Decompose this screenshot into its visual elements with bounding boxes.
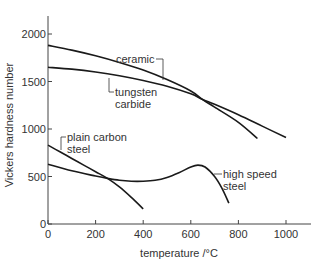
y-tick-label: 2000 — [22, 28, 46, 40]
series-lines — [48, 45, 286, 208]
series-tungsten-carbide — [48, 67, 286, 137]
y-tick-label: 1000 — [22, 123, 46, 135]
x-tick-label: 600 — [182, 228, 200, 240]
x-tick-label: 1000 — [274, 228, 298, 240]
x-tick-label: 0 — [45, 228, 51, 240]
y-tick-label: 500 — [28, 171, 46, 183]
x-ticks: 02004006008001000 — [45, 220, 298, 240]
x-axis-label: temperature /°C — [140, 247, 218, 259]
y-axis-label: Vickers hardness number — [3, 62, 15, 187]
series-high-speed-steel — [48, 164, 229, 203]
label-hss-2: steel — [223, 180, 246, 192]
x-tick-label: 400 — [134, 228, 152, 240]
y-ticks: 0500100015002000 — [22, 28, 52, 230]
y-tick-label: 1500 — [22, 76, 46, 88]
series-plain-carbon-steel — [48, 145, 143, 209]
leader-tungsten — [109, 78, 114, 92]
x-tick-label: 200 — [86, 228, 104, 240]
label-plain-2: steel — [67, 143, 90, 155]
axes: 0500100015002000 02004006008001000 tempe… — [3, 16, 311, 259]
hardness-temperature-chart: 0500100015002000 02004006008001000 tempe… — [0, 0, 324, 263]
label-tungsten-2: carbide — [115, 98, 151, 110]
label-ceramic: ceramic — [116, 53, 155, 65]
label-hss-1: high speed — [223, 168, 277, 180]
x-tick-label: 800 — [229, 228, 247, 240]
leader-plain — [61, 137, 66, 150]
label-tungsten-1: tungsten — [115, 86, 157, 98]
label-plain-1: plain carbon — [67, 131, 127, 143]
